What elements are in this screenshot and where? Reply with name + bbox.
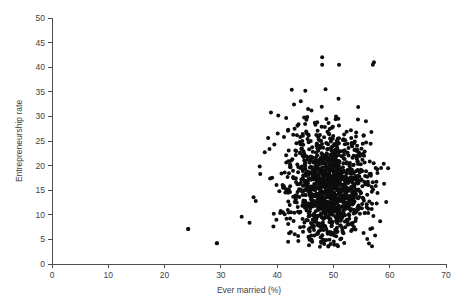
data-point bbox=[339, 219, 343, 223]
data-point bbox=[334, 117, 338, 121]
data-point bbox=[285, 217, 289, 221]
data-point bbox=[331, 177, 335, 181]
data-point bbox=[351, 195, 355, 199]
data-point bbox=[303, 184, 307, 188]
y-axis-title: Entrepreneurship rate bbox=[14, 100, 24, 182]
x-axis-title: Ever married (%) bbox=[217, 285, 281, 295]
data-point bbox=[286, 128, 290, 132]
data-point bbox=[349, 169, 353, 173]
data-point bbox=[350, 191, 354, 195]
data-point bbox=[284, 161, 288, 165]
data-point bbox=[303, 199, 307, 203]
scatter-plot-figure: 01020304050607005101520253035404550Ever … bbox=[0, 0, 470, 308]
data-point bbox=[326, 205, 330, 209]
data-point bbox=[286, 199, 290, 203]
data-point bbox=[347, 222, 351, 226]
data-point bbox=[298, 142, 302, 146]
data-point bbox=[301, 217, 305, 221]
data-point bbox=[338, 237, 342, 241]
data-point bbox=[370, 244, 374, 248]
data-point bbox=[342, 241, 346, 245]
data-point bbox=[342, 183, 346, 187]
data-point bbox=[337, 97, 341, 101]
data-point bbox=[296, 234, 300, 238]
data-point bbox=[334, 219, 338, 223]
data-point bbox=[318, 158, 322, 162]
data-point bbox=[320, 152, 324, 156]
data-point bbox=[334, 174, 338, 178]
data-point bbox=[315, 223, 319, 227]
data-point bbox=[337, 136, 341, 140]
data-point bbox=[309, 178, 313, 182]
data-point bbox=[318, 145, 322, 149]
data-point bbox=[341, 165, 345, 169]
data-point bbox=[319, 184, 323, 188]
data-point bbox=[307, 243, 311, 247]
y-tick-label: 25 bbox=[36, 136, 46, 146]
data-point bbox=[291, 133, 295, 137]
data-point bbox=[302, 204, 306, 208]
data-point bbox=[258, 165, 262, 169]
data-point bbox=[368, 160, 372, 164]
data-point bbox=[356, 117, 360, 121]
x-tick-label: 10 bbox=[104, 270, 114, 280]
data-point bbox=[319, 193, 323, 197]
data-point bbox=[320, 55, 324, 59]
data-point bbox=[252, 195, 256, 199]
data-point bbox=[357, 151, 361, 155]
data-point bbox=[365, 193, 369, 197]
data-point bbox=[292, 103, 296, 107]
data-point bbox=[348, 164, 352, 168]
data-point bbox=[328, 211, 332, 215]
data-point bbox=[320, 105, 324, 109]
data-point bbox=[352, 225, 356, 229]
data-point bbox=[345, 130, 349, 134]
data-point bbox=[286, 222, 290, 226]
data-point bbox=[315, 141, 319, 145]
data-point bbox=[349, 128, 353, 132]
data-point bbox=[379, 166, 383, 170]
data-point bbox=[314, 186, 318, 190]
data-point bbox=[337, 204, 341, 208]
y-tick-label: 30 bbox=[36, 111, 46, 121]
data-point bbox=[298, 225, 302, 229]
data-point bbox=[356, 105, 360, 109]
data-point bbox=[359, 162, 363, 166]
data-point bbox=[305, 131, 309, 135]
data-point bbox=[347, 217, 351, 221]
data-point bbox=[320, 125, 324, 129]
data-point bbox=[347, 196, 351, 200]
data-point bbox=[295, 133, 299, 137]
data-point bbox=[378, 219, 382, 223]
data-point bbox=[358, 212, 362, 216]
data-point bbox=[298, 166, 302, 170]
data-point bbox=[337, 124, 341, 128]
data-point bbox=[362, 231, 366, 235]
x-tick-label: 70 bbox=[441, 270, 451, 280]
y-tick-label: 20 bbox=[36, 161, 46, 171]
data-point bbox=[374, 184, 378, 188]
data-point bbox=[372, 161, 376, 165]
data-point bbox=[290, 88, 294, 92]
data-point bbox=[274, 218, 278, 222]
data-point bbox=[299, 99, 303, 103]
data-point bbox=[306, 107, 310, 111]
data-point bbox=[333, 154, 337, 158]
data-point bbox=[349, 229, 353, 233]
data-point bbox=[293, 232, 297, 236]
data-point bbox=[356, 181, 360, 185]
data-point bbox=[375, 171, 379, 175]
data-point bbox=[311, 150, 315, 154]
data-point bbox=[310, 155, 314, 159]
data-point bbox=[336, 244, 340, 248]
x-tick-label: 50 bbox=[329, 270, 339, 280]
data-point bbox=[371, 214, 375, 218]
data-point bbox=[382, 162, 386, 166]
data-point bbox=[338, 179, 342, 183]
data-point bbox=[347, 153, 351, 157]
data-point bbox=[303, 122, 307, 126]
data-point bbox=[301, 176, 305, 180]
data-point bbox=[304, 161, 308, 165]
data-point bbox=[266, 136, 270, 140]
data-point bbox=[355, 188, 359, 192]
